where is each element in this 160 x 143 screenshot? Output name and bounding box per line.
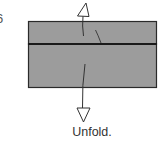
step-caption: Unfold. [60,126,124,139]
paper-bottom-section [29,44,157,88]
unfold-down-arrow-head-icon [77,108,90,122]
unfold-up-arrow-head-icon [78,3,90,17]
paper-top-flap [29,22,157,45]
diagram-canvas [0,0,160,143]
